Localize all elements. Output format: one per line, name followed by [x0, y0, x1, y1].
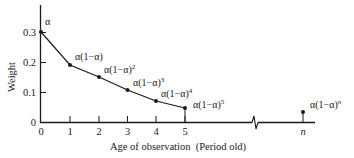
data-point-3: [126, 88, 130, 92]
point-label-1: α(1−α): [75, 51, 103, 63]
x-ticks: [70, 116, 185, 122]
svg-text:4: 4: [153, 126, 159, 137]
chart: 0 0.1 0.2 0.3 0 1 2 3 4 5 n Age of obser…: [0, 0, 354, 158]
point-label-3: α(1−α)3: [133, 76, 165, 89]
svg-text:n: n: [300, 126, 305, 137]
svg-text:1: 1: [67, 126, 72, 137]
data-point-5: [183, 106, 187, 110]
y-tick-labels: 0 0.1 0.2 0.3: [23, 27, 36, 128]
point-label-0: α: [45, 16, 51, 27]
point-label-5: α(1−α)5: [193, 98, 225, 111]
data-point-n: [301, 110, 305, 114]
x-axis-title: Age of observation (Period old): [110, 141, 247, 153]
svg-text:0: 0: [31, 117, 36, 128]
svg-text:3: 3: [125, 126, 130, 137]
point-label-4: α(1−α)4: [161, 87, 193, 100]
svg-text:0.1: 0.1: [23, 87, 36, 98]
svg-text:5: 5: [182, 126, 187, 137]
point-labels: α α(1−α) α(1−α)2 α(1−α)3 α(1−α)4 α(1−α)5…: [45, 16, 342, 111]
point-label-n: α(1−α)n: [310, 98, 342, 111]
svg-text:0.2: 0.2: [23, 57, 36, 68]
data-point-1: [68, 63, 72, 67]
x-tick-labels: 0 1 2 3 4 5 n: [38, 126, 305, 137]
data-point-4: [154, 99, 158, 103]
svg-text:2: 2: [96, 126, 101, 137]
data-point-0: [39, 30, 43, 34]
data-points: [39, 30, 305, 114]
data-point-2: [97, 75, 101, 79]
svg-text:0: 0: [38, 126, 43, 137]
axis-break-icon: [252, 116, 258, 129]
point-label-2: α(1−α)2: [104, 63, 136, 76]
svg-text:0.3: 0.3: [23, 27, 36, 38]
y-axis-title: Weight: [6, 62, 17, 92]
